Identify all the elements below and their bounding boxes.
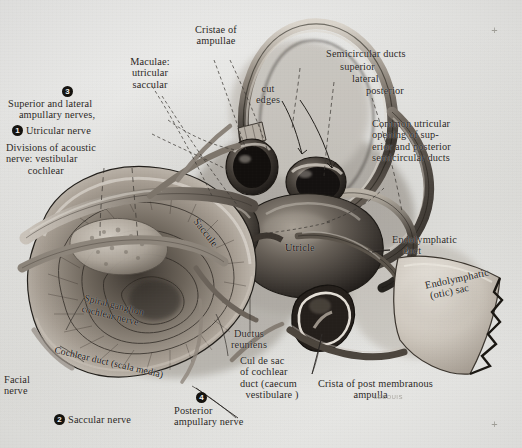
registration-mark-bottom-right: + (490, 420, 499, 429)
label-divisions-of-acoustic-nerve: Divisions of acoustic nerve: vestibular … (6, 142, 182, 176)
label-crista-of-posterior-membranous-ampulla: Crista of post membranous ampulla (318, 378, 490, 401)
posterior-ampulla (292, 285, 355, 351)
registration-mark-top-right: + (490, 26, 499, 35)
utricle-highlight (262, 212, 330, 244)
label-common-utricular-opening: Common utricular opening of sup- erior a… (372, 118, 520, 164)
label-superior-lateral-ampullary-nerves: Superior and lateral ampullary nerves, (8, 98, 184, 121)
marker-4: 4 (196, 392, 207, 403)
label-cut-edges: cut edges (246, 83, 290, 106)
label-endolymphatic-duct: Endolymphatic duct (392, 234, 514, 257)
label-saccular-nerve: Saccular nerve (68, 414, 131, 425)
label-utricle: Utricle (285, 242, 315, 253)
label-semicircular-duct-lateral: lateral (352, 73, 379, 84)
label-ductus-reuniens: Ductus reuniens (218, 328, 280, 351)
label-facial-nerve: Facial nerve (4, 374, 58, 397)
label-posterior-ampullary-nerve: Posterior ampullary nerve (174, 405, 298, 428)
label-maculae: Maculae: utricular saccular (96, 56, 204, 90)
label-semicircular-duct-superior: superior (340, 61, 375, 72)
label-utricular-nerve: Utricular nerve (26, 125, 91, 136)
label-semicircular-duct-posterior: posterior (366, 85, 404, 96)
marker-2: 2 (54, 414, 65, 425)
marker-1: 1 (12, 125, 23, 136)
marker-3: 3 (62, 86, 73, 97)
label-semicircular-ducts: Semicircular ducts (326, 48, 406, 59)
anatomical-plate: Cristae of ampullae Maculae: utricular s… (0, 0, 522, 448)
artist-signature: LEBOUIS (374, 394, 403, 400)
label-cristae-of-ampullae: Cristae of ampullae (160, 24, 272, 47)
